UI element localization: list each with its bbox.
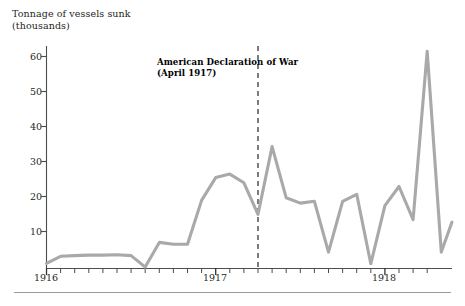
chart-figure: Tonnage of vessels sunk(thousands) Ameri…	[0, 0, 465, 306]
footer-divider-rule	[14, 292, 451, 293]
y-axis-ticks	[41, 57, 46, 232]
tonnage-sunk-line	[47, 51, 453, 267]
chart-canvas	[0, 0, 465, 306]
